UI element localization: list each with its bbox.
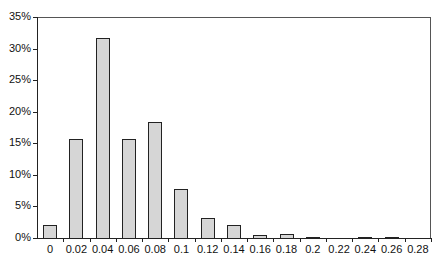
y-tick-label: 25%: [0, 74, 31, 85]
bar: [148, 122, 162, 239]
y-tick-label: 35%: [0, 11, 31, 22]
y-tick: [33, 143, 37, 144]
y-tick: [33, 175, 37, 176]
bar: [43, 225, 57, 239]
x-tick: [273, 238, 274, 242]
y-tick-label: 15%: [0, 137, 31, 148]
x-tick: [168, 238, 169, 242]
x-tick: [116, 238, 117, 242]
x-tick: [405, 238, 406, 242]
x-tick: [142, 238, 143, 242]
x-tick: [221, 238, 222, 242]
x-axis: [37, 238, 432, 239]
y-tick: [33, 112, 37, 113]
y-tick: [33, 80, 37, 81]
x-tick: [63, 238, 64, 242]
bar: [174, 189, 188, 239]
bar: [227, 225, 241, 239]
y-axis: [37, 17, 38, 239]
x-tick: [352, 238, 353, 242]
y-tick-label: 20%: [0, 106, 31, 117]
x-tick: [300, 238, 301, 242]
x-tick-label: 0.28: [403, 244, 433, 255]
y-tick: [33, 238, 37, 239]
bar: [122, 139, 136, 239]
x-tick: [195, 238, 196, 242]
x-tick: [326, 238, 327, 242]
x-tick: [378, 238, 379, 242]
x-tick: [431, 238, 432, 242]
bar: [96, 38, 110, 239]
bar: [69, 139, 83, 239]
y-tick: [33, 17, 37, 18]
y-tick-label: 5%: [0, 200, 31, 211]
y-tick-label: 30%: [0, 43, 31, 54]
bar: [201, 218, 215, 239]
y-tick: [33, 49, 37, 50]
x-tick: [90, 238, 91, 242]
y-tick-label: 0%: [0, 232, 31, 243]
y-tick: [33, 206, 37, 207]
x-tick: [247, 238, 248, 242]
y-tick-label: 10%: [0, 169, 31, 180]
